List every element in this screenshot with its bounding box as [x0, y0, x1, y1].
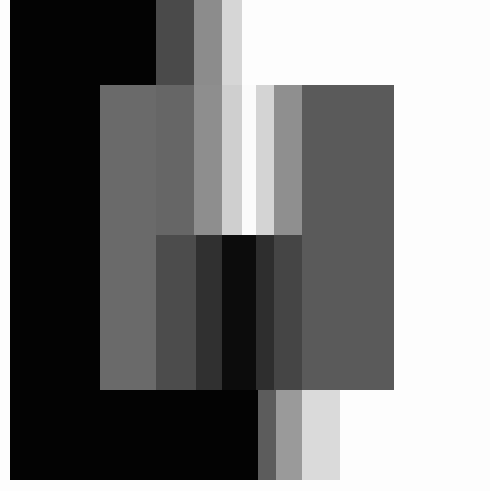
dark-band-4	[256, 235, 274, 390]
dark-band-2	[196, 235, 222, 390]
left-overlay-panel	[100, 85, 156, 390]
right-stripe-2	[274, 85, 302, 235]
black-field-lower	[10, 390, 258, 480]
top-stripe-3	[222, 0, 242, 85]
top-stripe-1	[156, 0, 194, 85]
bottom-stripe-2	[276, 390, 302, 480]
mid-stripe-b	[194, 85, 222, 235]
right-panel	[302, 85, 394, 390]
top-stripe-2	[194, 0, 222, 85]
bottom-stripe-1	[258, 390, 276, 480]
artwork-canvas: Abstract geometric composition of overla…	[0, 0, 490, 491]
center-gap	[242, 85, 256, 235]
mid-stripe-a	[156, 85, 194, 235]
dark-band-3	[222, 235, 256, 390]
right-stripe-1	[256, 85, 274, 235]
mid-stripe-c	[222, 85, 242, 235]
bottom-stripe-3	[302, 390, 340, 480]
dark-band-5	[274, 235, 302, 390]
dark-band-1	[156, 235, 196, 390]
